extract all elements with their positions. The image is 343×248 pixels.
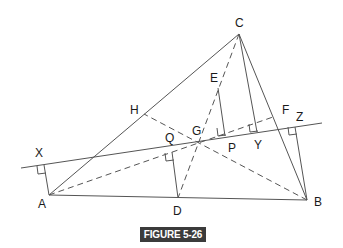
perp-e-p bbox=[218, 88, 225, 136]
point-label-g: G bbox=[192, 125, 201, 137]
geometry-diagram bbox=[0, 0, 343, 248]
perp-b-z bbox=[295, 127, 307, 200]
point-label-e: E bbox=[210, 72, 218, 84]
point-label-a: A bbox=[38, 198, 46, 210]
median-b-h bbox=[144, 114, 307, 200]
point-label-x: X bbox=[35, 147, 43, 159]
perp-d-q bbox=[172, 152, 178, 198]
point-label-f: F bbox=[282, 104, 289, 116]
line-xz bbox=[21, 123, 322, 168]
point-label-q: Q bbox=[165, 132, 174, 144]
point-label-b: B bbox=[314, 196, 322, 208]
perp-a-x bbox=[44, 165, 49, 195]
point-label-p: P bbox=[228, 142, 236, 154]
point-label-d: D bbox=[173, 205, 182, 217]
median-a-f bbox=[49, 117, 273, 195]
perp-c-y bbox=[239, 34, 257, 132]
point-label-c: C bbox=[235, 17, 244, 29]
point-label-z: Z bbox=[296, 111, 303, 123]
figure-caption: FIGURE 5-26 bbox=[140, 227, 206, 242]
point-label-h: H bbox=[130, 104, 139, 116]
median-c-d bbox=[178, 34, 239, 198]
point-label-y: Y bbox=[254, 139, 262, 151]
